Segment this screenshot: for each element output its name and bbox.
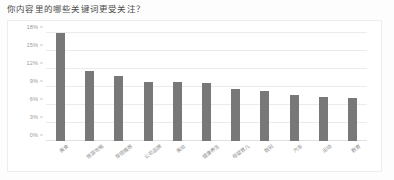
x-label-slot: 教育 — [338, 141, 367, 167]
x-axis-tick-label: 健康养生 — [201, 142, 221, 160]
y-axis-labels: 0%3%6%9%12%15%18% — [8, 33, 44, 141]
x-label-slot: 运动 — [309, 141, 338, 167]
bar-slot — [192, 33, 221, 141]
bar-slot — [338, 33, 367, 141]
question-title: 你内容里的哪些关键词更受关注？ — [7, 4, 145, 15]
bar-slot — [280, 33, 309, 141]
x-axis-tick-label: 旅游攻略 — [84, 142, 104, 160]
x-label-slot: 美妆 — [163, 141, 192, 167]
bar-slot — [75, 33, 104, 141]
y-axis-tick-label: 6% — [30, 96, 38, 102]
plot-area — [46, 33, 367, 141]
screenshot-root: 你内容里的哪些关键词更受关注？ 0%3%6%9%12%15%18% 美食旅游攻略… — [0, 0, 394, 180]
y-axis-tick-label: 18% — [27, 24, 39, 30]
x-label-slot: 美食 — [46, 141, 75, 167]
y-axis-tick-label: 3% — [30, 114, 38, 120]
x-axis-tick-label: 美妆 — [174, 142, 186, 154]
x-label-slot: 数码 — [250, 141, 279, 167]
x-axis-tick-label: 公司品牌 — [142, 142, 162, 160]
y-axis-tick-label: 12% — [27, 60, 39, 66]
bar[interactable] — [114, 76, 123, 141]
bar-slot — [46, 33, 75, 141]
x-axis-tick-label: 数码 — [262, 142, 274, 154]
x-axis-labels: 美食旅游攻略穿搭推荐公司品牌美妆健康养生母婴育儿数码汽车运动教育 — [46, 141, 367, 167]
x-label-slot: 汽车 — [280, 141, 309, 167]
y-axis-tick-mark — [40, 63, 43, 64]
bar-slot — [104, 33, 133, 141]
x-axis-tick-label: 教育 — [350, 142, 362, 154]
y-axis-tick-mark — [40, 81, 43, 82]
x-axis-tick-label: 汽车 — [291, 142, 303, 154]
x-axis-tick-label: 穿搭推荐 — [113, 142, 133, 160]
bar-slot — [163, 33, 192, 141]
y-axis-tick-mark — [40, 27, 43, 28]
bar-slot — [221, 33, 250, 141]
bar[interactable] — [319, 97, 328, 141]
bar[interactable] — [231, 89, 240, 141]
bar[interactable] — [85, 71, 94, 141]
bar-slot — [250, 33, 279, 141]
y-axis-tick-label: 9% — [30, 78, 38, 84]
x-label-slot: 公司品牌 — [134, 141, 163, 167]
bar[interactable] — [290, 95, 299, 141]
bar[interactable] — [56, 33, 65, 141]
bar-series — [46, 33, 367, 141]
y-axis-tick-mark — [40, 99, 43, 100]
x-axis-tick-label: 运动 — [320, 142, 332, 154]
y-axis-tick-mark — [40, 135, 43, 136]
y-axis-tick-label: 0% — [30, 132, 38, 138]
x-label-slot: 穿搭推荐 — [104, 141, 133, 167]
bar[interactable] — [260, 91, 269, 141]
chart-card: 0%3%6%9%12%15%18% 美食旅游攻略穿搭推荐公司品牌美妆健康养生母婴… — [7, 20, 382, 172]
x-label-slot: 母婴育儿 — [221, 141, 250, 167]
y-axis-tick-label: 15% — [27, 42, 39, 48]
bar[interactable] — [348, 98, 357, 141]
x-axis-tick-label: 母婴育儿 — [230, 142, 250, 160]
bar[interactable] — [202, 83, 211, 141]
bar[interactable] — [144, 82, 153, 141]
bar-slot — [134, 33, 163, 141]
y-axis-tick-mark — [40, 45, 43, 46]
x-axis-tick-label: 美食 — [58, 142, 70, 154]
x-label-slot: 健康养生 — [192, 141, 221, 167]
x-label-slot: 旅游攻略 — [75, 141, 104, 167]
bar[interactable] — [173, 82, 182, 141]
bar-slot — [309, 33, 338, 141]
y-axis-tick-mark — [40, 117, 43, 118]
